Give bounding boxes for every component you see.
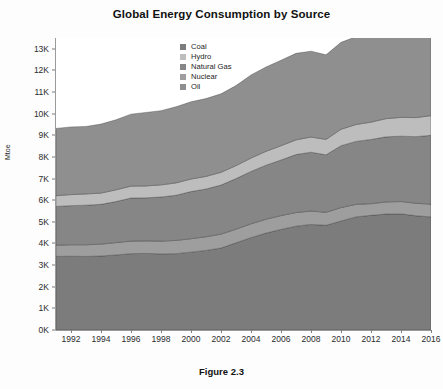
y-tick-label: 4K [39, 238, 49, 248]
legend-swatch-icon [180, 54, 186, 60]
chart-title: Global Energy Consumption by Source [0, 8, 443, 20]
y-axis: 0K1K2K3K4K5K6K7K8K9K10K11K12K13K [0, 38, 56, 330]
x-tick-mark [221, 330, 222, 333]
x-tick-mark [131, 330, 132, 333]
x-tick-label: 2004 [242, 334, 261, 344]
legend-item[interactable]: Hydro [180, 52, 232, 61]
y-tick-label: 13K [34, 44, 49, 54]
x-tick-label: 2012 [362, 334, 381, 344]
y-tick-label: 0K [39, 325, 49, 335]
y-tick-label: 12K [34, 65, 49, 75]
x-tick-label: 2010 [332, 334, 351, 344]
y-tick-label: 11K [35, 87, 50, 97]
y-tick-label: 9K [39, 130, 49, 140]
x-tick-mark [431, 330, 432, 333]
legend-item-label: Nuclear [191, 72, 217, 81]
x-tick-mark [401, 330, 402, 333]
x-tick-mark [341, 330, 342, 333]
x-tick-label: 2000 [182, 334, 201, 344]
stacked-area-svg [56, 38, 431, 330]
y-tick-label: 5K [39, 217, 49, 227]
x-axis: 1992199419961998200020022004200620082010… [56, 330, 431, 350]
y-axis-title: Mtoe [4, 144, 11, 160]
legend-item-label: Natural Gas [191, 62, 232, 71]
y-tick-label: 7K [39, 174, 49, 184]
figure-caption: Figure 2.3 [0, 366, 443, 377]
x-tick-label: 2002 [212, 334, 231, 344]
x-tick-mark [311, 330, 312, 333]
x-tick-mark [71, 330, 72, 333]
x-tick-label: 1992 [62, 334, 81, 344]
area-layers [56, 38, 431, 330]
legend-item[interactable]: Nuclear [180, 72, 232, 81]
x-tick-mark [161, 330, 162, 333]
y-tick-label: 1K [39, 303, 49, 313]
x-tick-mark [281, 330, 282, 333]
x-tick-mark [101, 330, 102, 333]
x-tick-label: 2014 [392, 334, 411, 344]
legend-item[interactable]: Natural Gas [180, 62, 232, 71]
plot-area [56, 38, 431, 330]
legend-swatch-icon [180, 44, 186, 50]
legend-item-label: Oil [191, 82, 200, 91]
figure-container: Global Energy Consumption by Source 0K1K… [0, 0, 443, 389]
x-tick-label: 1994 [92, 334, 111, 344]
x-tick-label: 2006 [272, 334, 291, 344]
y-tick-label: 3K [39, 260, 49, 270]
x-tick-label: 2016 [422, 334, 441, 344]
legend-item[interactable]: Coal [180, 42, 232, 51]
x-tick-label: 1998 [152, 334, 171, 344]
y-tick-label: 10K [34, 109, 49, 119]
y-tick-label: 8K [39, 152, 49, 162]
legend-swatch-icon [180, 74, 186, 80]
legend-swatch-icon [180, 84, 186, 90]
x-tick-mark [251, 330, 252, 333]
x-tick-mark [191, 330, 192, 333]
x-tick-label: 2008 [302, 334, 321, 344]
chart-legend: CoalHydroNatural GasNuclearOil [180, 42, 232, 91]
plot-wrapper [56, 38, 431, 330]
x-tick-label: 1996 [122, 334, 141, 344]
legend-item[interactable]: Oil [180, 82, 232, 91]
legend-swatch-icon [180, 64, 186, 70]
legend-item-label: Hydro [191, 52, 211, 61]
x-tick-mark [371, 330, 372, 333]
y-tick-label: 2K [39, 282, 49, 292]
legend-item-label: Coal [191, 42, 207, 51]
y-tick-label: 6K [39, 195, 49, 205]
